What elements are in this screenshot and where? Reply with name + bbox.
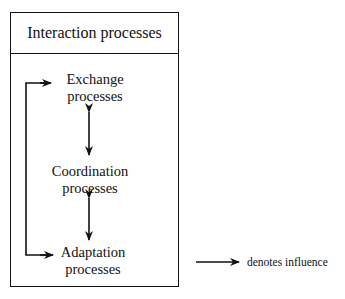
legend-label: denotes influence: [247, 256, 328, 268]
feedback-loop-bracket-icon: [26, 83, 53, 255]
arrows-layer: [0, 0, 345, 299]
